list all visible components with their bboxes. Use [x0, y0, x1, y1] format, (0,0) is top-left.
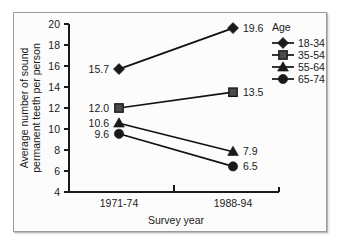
data-label-65-74-1971-74: 9.6 — [94, 128, 109, 140]
series-line-35-54 — [119, 92, 233, 108]
legend-item-55-64[interactable]: 55-64 — [272, 61, 325, 73]
data-point-18-34-1988-94 — [228, 23, 239, 34]
y-tick-label-8: 8 — [54, 144, 60, 156]
data-point-65-74-1971-74 — [114, 129, 123, 138]
y-tick-label-10: 10 — [48, 123, 60, 135]
y-tick-label-16: 16 — [48, 60, 60, 72]
data-label-55-64-1988-94: 7.9 — [243, 145, 258, 157]
data-point-18-34-1971-74 — [114, 64, 125, 75]
legend-item-35-54[interactable]: 35-54 — [272, 49, 325, 61]
data-point-35-54-1988-94 — [229, 88, 237, 96]
data-label-18-34-1971-74: 15.7 — [89, 63, 110, 75]
legend-marker-diamond-icon — [278, 38, 289, 49]
y-axis-ticks — [64, 24, 69, 192]
data-label-18-34-1988-94: 19.6 — [243, 22, 264, 34]
x-tick-label-1988-94: 1988-94 — [214, 197, 253, 209]
legend-label-18-34: 18-34 — [298, 37, 325, 49]
legend-label-55-64: 55-64 — [298, 61, 325, 73]
y-tick-label-14: 14 — [48, 81, 60, 93]
y-axis-title-line1: Average number of sound — [18, 48, 30, 169]
series-line-65-74 — [119, 134, 233, 167]
x-tick-label-1971-74: 1971-74 — [100, 197, 139, 209]
figure-frame: 20 18 16 14 12 10 8 6 4 — [13, 12, 327, 232]
y-tick-label-4: 4 — [54, 186, 60, 198]
legend: Age 18-34 35-54 55-64 — [272, 21, 325, 85]
y-tick-label-18: 18 — [48, 39, 60, 51]
legend-label-35-54: 35-54 — [298, 49, 325, 61]
y-axis-title-line2: permanent teeth per person — [30, 43, 42, 173]
line-chart-plot: 20 18 16 14 12 10 8 6 4 — [14, 13, 326, 231]
data-label-35-54-1988-94: 13.5 — [243, 86, 264, 98]
x-axis-title: Survey year — [148, 214, 205, 226]
legend-item-18-34[interactable]: 18-34 — [272, 37, 325, 49]
data-point-35-54-1971-74 — [115, 104, 123, 112]
legend-marker-circle-icon — [278, 74, 287, 83]
legend-item-65-74[interactable]: 65-74 — [272, 73, 325, 85]
data-point-55-64-1971-74 — [114, 118, 125, 127]
y-tick-label-20: 20 — [48, 18, 60, 30]
data-label-35-54-1971-74: 12.0 — [89, 102, 110, 114]
legend-marker-square-icon — [279, 51, 287, 59]
y-tick-label-12: 12 — [48, 102, 60, 114]
y-tick-label-6: 6 — [54, 165, 60, 177]
data-label-65-74-1988-94: 6.5 — [243, 160, 258, 172]
series-line-55-64 — [119, 123, 233, 151]
legend-title: Age — [272, 21, 291, 33]
series-line-18-34 — [119, 28, 233, 69]
chart-screenshot: 20 18 16 14 12 10 8 6 4 — [0, 0, 341, 246]
legend-label-65-74: 65-74 — [298, 73, 325, 85]
data-point-65-74-1988-94 — [228, 162, 237, 171]
